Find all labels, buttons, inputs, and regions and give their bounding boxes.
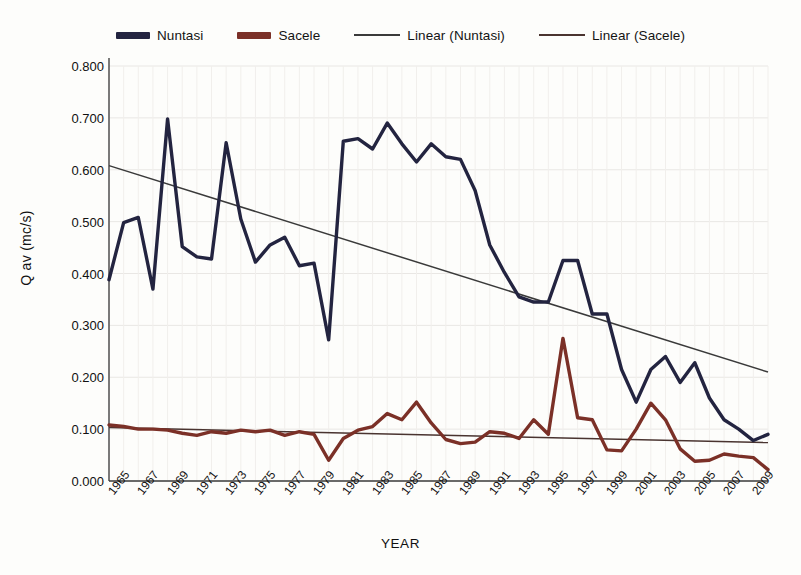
plot-area <box>0 0 801 575</box>
series-line-nuntasi <box>109 119 768 441</box>
chart-figure: NuntasiSaceleLinear (Nuntasi)Linear (Sac… <box>0 0 801 575</box>
series-line-sacele <box>109 338 768 469</box>
x-axis-title: YEAR <box>0 536 801 551</box>
gridlines <box>109 66 768 481</box>
trendline-linear-nuntasi <box>109 166 768 372</box>
